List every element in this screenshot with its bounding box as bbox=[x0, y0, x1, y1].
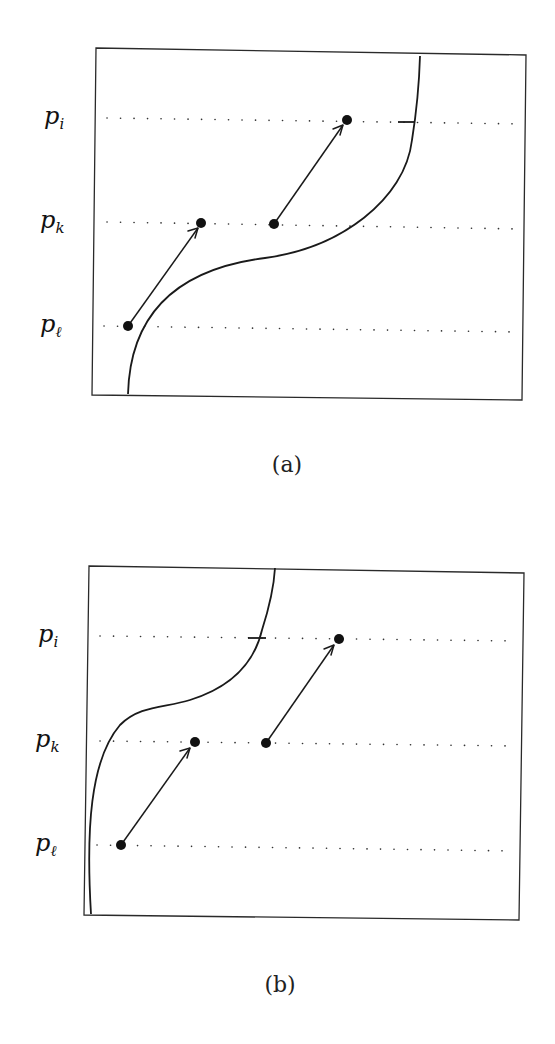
panel-a-point-pk-2 bbox=[269, 219, 279, 229]
panel-a-label-pi: pi bbox=[44, 102, 64, 133]
panel-b-level-line-pk bbox=[100, 741, 516, 746]
panel-a-caption: (a) bbox=[272, 452, 302, 477]
panel-a-frame bbox=[92, 48, 526, 400]
panel-b-point-pk-1 bbox=[190, 737, 200, 747]
panel-b-point-pi bbox=[334, 634, 344, 644]
panel-b-label-pl: pℓ bbox=[35, 829, 57, 860]
panel-b-frame bbox=[84, 566, 524, 920]
panel-b-point-pl bbox=[116, 840, 126, 850]
panel-b-label-pk: pk bbox=[35, 725, 59, 756]
panel-a-point-pi bbox=[342, 115, 352, 125]
panel-b-label-pi: pi bbox=[38, 620, 58, 651]
panel-b-level-line-pl bbox=[97, 845, 514, 851]
panel-b-curve bbox=[89, 568, 275, 914]
panel-a-label-pk: pk bbox=[40, 206, 64, 237]
panel-a: pi pk pℓ (a) bbox=[40, 48, 526, 477]
panel-b-caption: (b) bbox=[264, 972, 295, 997]
panel-a-label-pl: pℓ bbox=[40, 310, 62, 341]
panel-b-arrow-pk-to-pi bbox=[266, 645, 334, 743]
panel-a-arrow-pk-to-pi bbox=[274, 125, 343, 224]
panel-b: pi pk pℓ (b) bbox=[35, 566, 524, 997]
panel-b-point-pk-2 bbox=[261, 738, 271, 748]
panel-a-level-line-pl bbox=[104, 326, 518, 332]
panel-b-level-line-pi bbox=[100, 636, 518, 641]
panel-a-point-pk-1 bbox=[196, 218, 206, 228]
panel-a-level-line-pk bbox=[107, 222, 520, 229]
panel-b-arrow-pl-to-pk bbox=[121, 748, 190, 845]
panel-a-arrow-pl-to-pk bbox=[128, 228, 198, 326]
panel-a-point-pl bbox=[123, 321, 133, 331]
panel-a-level-line-pi bbox=[107, 118, 523, 124]
figure: pi pk pℓ (a) pi pk pℓ (b) bbox=[0, 0, 555, 1044]
